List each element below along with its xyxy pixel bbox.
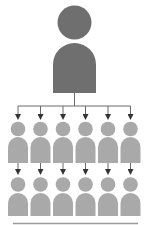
hierarchy-diagram: [0, 0, 153, 225]
head-shape: [78, 122, 93, 137]
body-shape: [53, 43, 96, 93]
member-person: [98, 177, 118, 216]
head-shape: [101, 122, 116, 137]
body-shape: [31, 193, 51, 216]
org-chart-graphic: [0, 0, 153, 225]
head-shape: [58, 6, 92, 40]
member-person: [8, 177, 28, 216]
body-shape: [121, 193, 141, 216]
body-shape: [8, 137, 28, 163]
body-shape: [53, 137, 73, 163]
head-shape: [123, 122, 138, 137]
member-person: [98, 122, 118, 163]
member-person: [31, 177, 51, 216]
head-shape: [11, 177, 26, 192]
head-shape: [101, 177, 116, 192]
member-person: [121, 122, 141, 163]
member-person: [53, 122, 73, 163]
head-shape: [33, 177, 48, 192]
member-person: [76, 122, 96, 163]
member-person: [53, 177, 73, 216]
member-person: [121, 177, 141, 216]
leader-person: [53, 6, 96, 94]
body-shape: [121, 137, 141, 163]
body-shape: [31, 137, 51, 163]
team-members: [8, 122, 141, 216]
member-person: [8, 122, 28, 163]
body-shape: [76, 137, 96, 163]
body-shape: [76, 193, 96, 216]
head-shape: [123, 177, 138, 192]
head-shape: [11, 122, 26, 137]
head-shape: [33, 122, 48, 137]
leader-person-icon: [53, 6, 96, 94]
member-person: [31, 122, 51, 163]
head-shape: [56, 122, 71, 137]
head-shape: [78, 177, 93, 192]
body-shape: [53, 193, 73, 216]
member-person: [76, 177, 96, 216]
body-shape: [8, 193, 28, 216]
body-shape: [98, 193, 118, 216]
head-shape: [56, 177, 71, 192]
body-shape: [98, 137, 118, 163]
